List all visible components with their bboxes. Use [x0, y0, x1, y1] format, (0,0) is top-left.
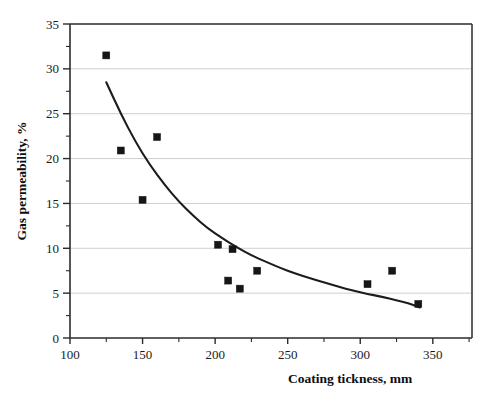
data-point [215, 241, 222, 248]
x-tick-label: 150 [133, 347, 153, 362]
y-tick-label: 5 [53, 286, 60, 301]
data-point [389, 267, 396, 274]
y-axis-title: Gas permeability, % [14, 122, 29, 241]
x-axis-tick-labels: 100150200250300350 [60, 347, 442, 362]
plot-background [70, 24, 472, 338]
data-point [154, 134, 161, 141]
y-tick-label: 10 [46, 241, 59, 256]
scatter-chart: 100150200250300350 05101520253035 Coatin… [0, 0, 494, 409]
data-point [229, 246, 236, 253]
data-point [415, 300, 422, 307]
data-point [254, 267, 261, 274]
x-axis-title: Coating tickness, mm [288, 371, 413, 386]
data-point [236, 285, 243, 292]
y-tick-label: 20 [46, 151, 59, 166]
data-point [117, 147, 124, 154]
y-axis-tick-labels: 05101520253035 [46, 17, 59, 346]
y-tick-label: 25 [46, 106, 59, 121]
data-point [103, 52, 110, 59]
x-tick-label: 200 [205, 347, 225, 362]
x-tick-label: 100 [60, 347, 80, 362]
data-point [139, 196, 146, 203]
y-tick-label: 15 [46, 196, 59, 211]
data-point [364, 281, 371, 288]
y-tick-label: 30 [46, 61, 59, 76]
figure-container: 100150200250300350 05101520253035 Coatin… [0, 0, 494, 409]
x-tick-label: 300 [351, 347, 371, 362]
y-tick-label: 35 [46, 17, 59, 32]
x-tick-label: 250 [278, 347, 298, 362]
data-point [225, 277, 232, 284]
y-tick-label: 0 [53, 331, 60, 346]
x-tick-label: 350 [423, 347, 443, 362]
